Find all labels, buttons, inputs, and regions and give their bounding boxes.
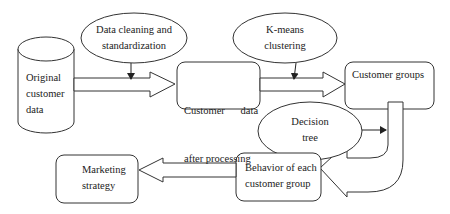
label-line: Customer groups [352, 67, 424, 83]
label-marketing: Marketing strategy [82, 162, 126, 194]
label-line: standardization [86, 38, 182, 54]
label-line: tree [270, 130, 350, 146]
label-decision: Decision tree [270, 114, 350, 146]
label-behavior: Behavior of each customer group [245, 160, 317, 192]
label-line: customer group [245, 176, 317, 192]
arrow-processed-to-groups [260, 72, 345, 97]
label-line: data [26, 102, 65, 118]
label-kmeans: K-means clustering [245, 22, 325, 54]
label-groups: Customer groups [352, 67, 424, 83]
label-line: customer [26, 86, 65, 102]
label-line: Customer data [184, 103, 258, 119]
label-line: Behavior of each [245, 160, 317, 176]
label-line: Marketing [82, 162, 126, 178]
label-line: clustering [245, 38, 325, 54]
label-line: Data cleaning and [86, 22, 182, 38]
label-line: Original [26, 70, 65, 86]
arrow-original-to-processed [74, 72, 175, 97]
label-line: Decision [270, 114, 350, 130]
label-cleaning: Data cleaning and standardization [86, 22, 182, 54]
label-line: K-means [245, 22, 325, 38]
label-original: Original customer data [26, 70, 65, 118]
label-line: strategy [82, 178, 126, 194]
